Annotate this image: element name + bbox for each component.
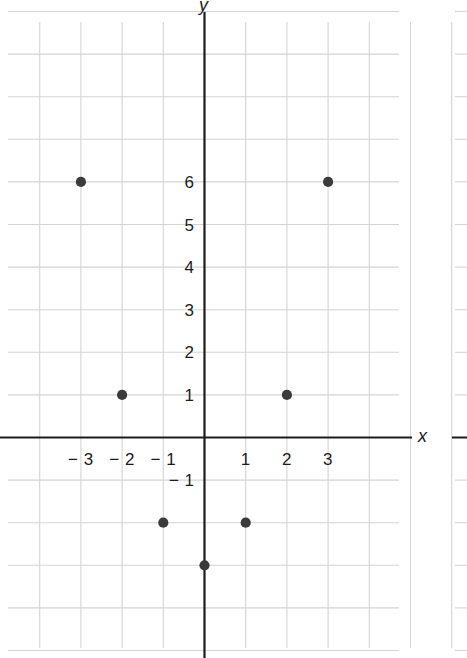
data-point bbox=[282, 390, 292, 400]
data-point bbox=[241, 518, 251, 528]
data-point bbox=[323, 177, 333, 187]
y-tick-label: 4 bbox=[185, 259, 195, 276]
coordinate-plane-figure: − 3− 2− 1123654321− 1 x y bbox=[0, 0, 467, 658]
y-tick-label: 6 bbox=[185, 173, 195, 190]
data-point bbox=[158, 518, 168, 528]
y-tick-label: 2 bbox=[185, 344, 195, 361]
x-axis-label: x bbox=[418, 427, 427, 445]
x-tick-label: − 3 bbox=[68, 451, 94, 468]
data-point bbox=[199, 560, 209, 570]
x-tick-label: 3 bbox=[323, 451, 333, 468]
x-tick-label: − 2 bbox=[109, 451, 135, 468]
x-tick-label: 2 bbox=[282, 451, 292, 468]
y-tick-label: − 1 bbox=[169, 472, 195, 489]
grid-and-axes bbox=[0, 0, 467, 658]
y-tick-label: 3 bbox=[185, 301, 195, 318]
data-point bbox=[117, 390, 127, 400]
data-point bbox=[76, 177, 86, 187]
y-axis-label: y bbox=[199, 0, 208, 14]
x-tick-label: 1 bbox=[241, 451, 251, 468]
y-tick-label: 1 bbox=[185, 386, 195, 403]
gridlines bbox=[8, 12, 452, 651]
x-tick-label: − 1 bbox=[150, 451, 176, 468]
adjacent-grid-fragment bbox=[452, 12, 467, 651]
y-tick-label: 5 bbox=[185, 216, 195, 233]
